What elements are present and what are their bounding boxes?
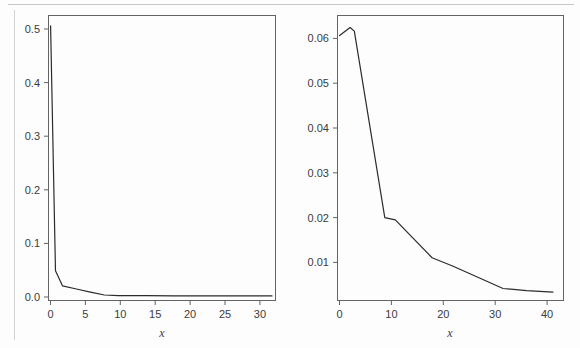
right-x-tickmarks: [340, 301, 548, 306]
right-chart-panel: 0.01 0.02 0.03 0.04 0.05 0.06 0 10 20 30…: [290, 0, 580, 348]
left-x-tickmarks: [51, 301, 260, 306]
left-ytick-label-5: 0.5: [25, 23, 40, 35]
right-plot-frame: [338, 16, 564, 301]
right-ytick-label-3: 0.04: [308, 122, 329, 134]
left-xtick-label-4: 20: [184, 308, 196, 320]
left-xtick-label-6: 30: [254, 308, 266, 320]
figure-canvas: 0.0 0.1 0.2 0.3 0.4 0.5 0 5 10 15 20 25: [0, 0, 580, 348]
left-ytick-label-2: 0.2: [25, 184, 40, 196]
right-xtick-label-2: 20: [437, 308, 449, 320]
left-ytick-label-0: 0.0: [25, 291, 40, 303]
left-data-curve: [51, 26, 272, 296]
right-data-curve: [340, 28, 553, 293]
right-chart-svg: 0.01 0.02 0.03 0.04 0.05 0.06 0 10 20 30…: [290, 0, 580, 348]
left-plot-frame: [49, 16, 276, 301]
right-xtick-label-3: 30: [489, 308, 501, 320]
left-xtick-label-0: 0: [47, 308, 53, 320]
right-ytick-label-1: 0.02: [308, 212, 329, 224]
right-xtick-label-1: 10: [385, 308, 397, 320]
left-chart-svg: 0.0 0.1 0.2 0.3 0.4 0.5 0 5 10 15 20 25: [0, 0, 290, 348]
left-xtick-label-1: 5: [82, 308, 88, 320]
left-x-axis-title: x: [158, 326, 165, 340]
left-ytick-label-4: 0.4: [25, 77, 40, 89]
right-xtick-label-4: 40: [541, 308, 553, 320]
right-ytick-label-2: 0.03: [308, 167, 329, 179]
right-x-axis-title: x: [446, 326, 453, 340]
right-ytick-label-0: 0.01: [308, 256, 329, 268]
left-ytick-label-3: 0.3: [25, 130, 40, 142]
left-xtick-label-2: 10: [114, 308, 126, 320]
right-ytick-label-4: 0.05: [308, 77, 329, 89]
right-ytick-label-5: 0.06: [308, 32, 329, 44]
right-xtick-label-0: 0: [336, 308, 342, 320]
left-ytick-label-1: 0.1: [25, 237, 40, 249]
left-y-tickmarks: [44, 29, 49, 297]
right-y-tickmarks: [333, 38, 338, 262]
left-chart-panel: 0.0 0.1 0.2 0.3 0.4 0.5 0 5 10 15 20 25: [0, 0, 290, 348]
left-xtick-label-3: 15: [149, 308, 161, 320]
left-xtick-label-5: 25: [219, 308, 231, 320]
